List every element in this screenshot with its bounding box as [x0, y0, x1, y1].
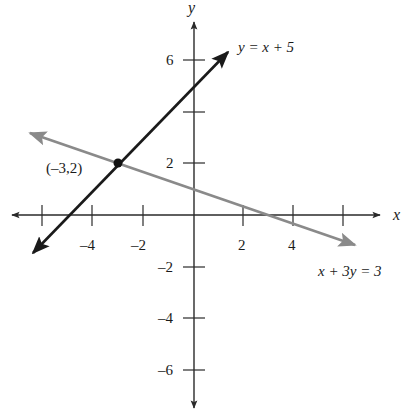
x-axis-label: x — [392, 206, 400, 223]
y-tick-label-minus6: –6 — [157, 362, 174, 378]
coordinate-plane: –4 –2 2 4 6 2 –2 –4 –6 x y (–3,2) y = x … — [0, 0, 407, 413]
line-x-plus-3y-eq-3 — [30, 133, 355, 245]
y-tick-label-minus4: –4 — [157, 310, 174, 326]
line-y-eq-x-plus-5 — [33, 52, 228, 253]
x-tick-label-minus2: –2 — [130, 237, 146, 253]
y-axis-label: y — [186, 0, 196, 17]
line1-label: y = x + 5 — [236, 39, 295, 55]
line2-label: x + 3y = 3 — [317, 263, 382, 279]
intersection-point — [114, 159, 123, 168]
x-tick-label-4: 4 — [288, 237, 296, 253]
x-tick-label-2: 2 — [238, 237, 246, 253]
y-tick-label-2: 2 — [166, 155, 174, 171]
x-tick-label-minus4: –4 — [79, 237, 96, 253]
y-tick-label-minus2: –2 — [157, 259, 173, 275]
y-tick-label-6: 6 — [166, 52, 174, 68]
intersection-label: (–3,2) — [46, 160, 82, 177]
